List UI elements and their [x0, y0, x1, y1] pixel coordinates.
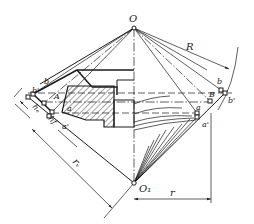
label-left-a-prime: a' [62, 122, 69, 131]
label-right-b-prime: b' [228, 96, 235, 105]
label-ha: hₐ [31, 102, 43, 114]
point-right-b-prime [223, 91, 227, 95]
R-dimension-line [134, 28, 229, 69]
label-O1: O₁ [139, 183, 151, 194]
label-right-b: b [217, 77, 222, 86]
hub-section [114, 100, 134, 127]
point-right-B [208, 99, 212, 103]
point-right-b [219, 88, 223, 92]
label-r: r [170, 187, 176, 198]
label-right-B: B [208, 90, 215, 99]
label-right-a-prime: a' [202, 120, 209, 129]
point-left-b-prime [26, 95, 30, 99]
label-rv: rᵥ [71, 156, 85, 170]
label-left-b-prime: b' [32, 86, 39, 95]
point-O1 [132, 181, 136, 185]
label-left-A: A [53, 92, 60, 101]
label-right-a: a [196, 103, 201, 112]
label-R: R [185, 41, 194, 52]
point-O [132, 26, 136, 30]
label-left-a: a [67, 104, 72, 113]
point-right-a-prime [195, 115, 199, 119]
label-O: O [129, 13, 137, 24]
bevel-gear-diagram: O O₁ R r rᵥ hₐ hf b b' A a a' b b' B a a… [0, 0, 254, 224]
point-left-A [42, 101, 46, 105]
label-left-b: b [44, 77, 49, 86]
